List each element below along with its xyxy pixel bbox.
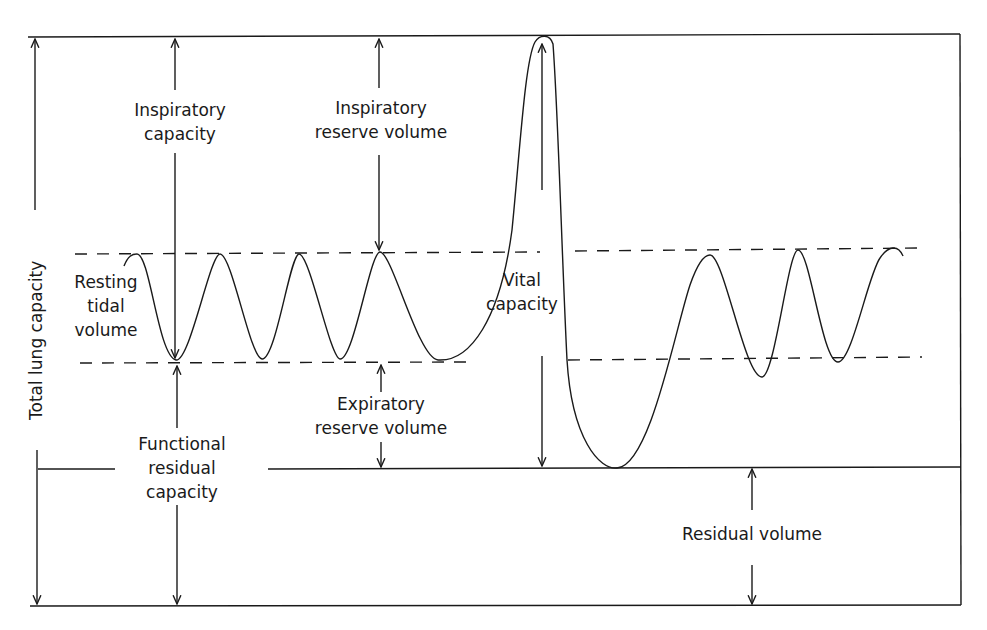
- frc-label-line2: residual: [138, 456, 225, 480]
- total-lung-capacity-label: Total lung capacity: [26, 261, 46, 420]
- right-border-line: [960, 34, 961, 605]
- rv-label: Residual volume: [682, 522, 822, 546]
- rtv-label-line1: Resting: [74, 270, 137, 294]
- erv-label-line2: reserve volume: [315, 416, 447, 440]
- total-lung-capacity-line: [28, 34, 960, 37]
- irv-label-line2: reserve volume: [315, 120, 447, 144]
- zero-baseline: [30, 605, 961, 606]
- frc-label-line1: Functional: [138, 432, 225, 456]
- erv-label-line1: Expiratory: [315, 392, 447, 416]
- tidal-peak-dashed-line-left: [75, 252, 540, 254]
- spirogram-curve: [124, 36, 903, 468]
- irv-label-line1: Inspiratory: [315, 96, 447, 120]
- expiratory-reserve-volume-label: Expiratory reserve volume: [315, 392, 447, 440]
- inspiratory-capacity-label: Inspiratory capacity: [134, 98, 226, 146]
- tidal-peak-dashed-line-right: [575, 248, 922, 251]
- inspiratory-capacity-label-line1: Inspiratory: [134, 98, 226, 122]
- rtv-label-line3: volume: [74, 318, 137, 342]
- resting-tidal-volume-label: Resting tidal volume: [74, 270, 137, 342]
- rtv-label-line2: tidal: [74, 294, 137, 318]
- tidal-trough-dashed-line-left: [80, 362, 470, 363]
- vc-label-line1: Vital: [486, 268, 558, 292]
- vital-capacity-label: Vital capacity: [486, 268, 558, 316]
- inspiratory-reserve-volume-label: Inspiratory reserve volume: [315, 96, 447, 144]
- inspiratory-capacity-label-line2: capacity: [134, 122, 226, 146]
- frc-label-line3: capacity: [138, 480, 225, 504]
- tidal-trough-dashed-line-right: [568, 357, 922, 360]
- vc-label-line2: capacity: [486, 292, 558, 316]
- residual-volume-label: Residual volume: [682, 522, 822, 546]
- functional-residual-capacity-label: Functional residual capacity: [138, 432, 225, 504]
